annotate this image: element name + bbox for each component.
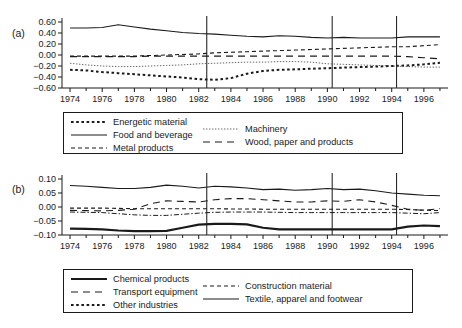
y-tick-label: 0.10 xyxy=(38,174,56,184)
legend-swatch-energetic-material xyxy=(70,117,108,127)
figure-container: (a) 0.600.400.200.00−0.20−0.40−0.6019741… xyxy=(0,0,462,328)
y-tick-label: −0.60 xyxy=(33,83,56,93)
legend-label-construction-material: Construction material xyxy=(245,281,332,291)
x-tick-label: 1980 xyxy=(157,241,177,251)
y-tick-label: 0.00 xyxy=(38,50,56,60)
legend-item-energetic-material: Energetic material xyxy=(70,116,198,128)
x-tick-label: 1992 xyxy=(350,94,370,104)
legend-label-food-and-beverage: Food and beverage xyxy=(113,130,193,140)
chart-panel-a: 0.600.400.200.00−0.20−0.40−0.60197419761… xyxy=(0,0,462,110)
legend-swatch-metal-products xyxy=(70,143,108,153)
series-line-food-and-beverage xyxy=(70,25,440,38)
x-tick-label: 1996 xyxy=(414,241,434,251)
legend-swatch-other-industries xyxy=(70,300,108,310)
series-line-wood-paper-and-products xyxy=(70,56,440,59)
y-tick-label: 0.00 xyxy=(38,202,56,212)
x-tick-label: 1976 xyxy=(92,94,112,104)
y-tick-label: −0.40 xyxy=(33,72,56,82)
x-tick-label: 1996 xyxy=(414,94,434,104)
legend-label-other-industries: Other industries xyxy=(113,300,178,310)
legend-item-textile-apparel-and-footwear: Textile, apparel and footwear xyxy=(202,293,408,305)
x-tick-label: 1990 xyxy=(317,241,337,251)
x-tick-label: 1974 xyxy=(60,94,80,104)
x-tick-label: 1988 xyxy=(285,241,305,251)
y-tick-label: −0.05 xyxy=(33,216,56,226)
series-line-energetic-material xyxy=(70,63,440,80)
series-line-metal-products xyxy=(70,45,440,57)
x-tick-label: 1984 xyxy=(221,94,241,104)
y-tick-label: 0.60 xyxy=(38,17,56,27)
legend-label-machinery: Machinery xyxy=(245,124,287,134)
axis-lines xyxy=(62,18,448,88)
x-tick-label: 1994 xyxy=(382,94,402,104)
x-tick-label: 1990 xyxy=(317,94,337,104)
x-tick-label: 1980 xyxy=(157,94,177,104)
legend-swatch-textile-apparel-and-footwear xyxy=(202,294,240,304)
legend-label-metal-products: Metal products xyxy=(113,143,173,153)
x-tick-label: 1978 xyxy=(124,94,144,104)
x-tick-label: 1982 xyxy=(189,241,209,251)
legend-item-machinery: Machinery xyxy=(202,123,398,135)
series-line-other-industries xyxy=(70,212,440,215)
legend-item-metal-products: Metal products xyxy=(70,142,198,154)
x-tick-label: 1978 xyxy=(124,241,144,251)
y-tick-label: −0.10 xyxy=(33,230,56,240)
x-tick-label: 1974 xyxy=(60,241,80,251)
legend-swatch-machinery xyxy=(202,124,240,134)
legend-label-chemical-products: Chemical products xyxy=(113,274,189,284)
legend-item-food-and-beverage: Food and beverage xyxy=(70,129,198,141)
x-tick-label: 1986 xyxy=(253,241,273,251)
y-tick-label: 0.05 xyxy=(38,188,56,198)
legend-label-energetic-material: Energetic material xyxy=(113,117,187,127)
x-tick-label: 1986 xyxy=(253,94,273,104)
chart-panel-b: 0.100.050.00−0.05−0.10197419761978198019… xyxy=(0,157,462,267)
legend-item-wood-paper-and-products: Wood, paper and products xyxy=(202,136,398,148)
x-tick-label: 1984 xyxy=(221,241,241,251)
legend-item-transport-equipment: Transport equipment xyxy=(70,286,198,298)
legend-label-wood-paper-and-products: Wood, paper and products xyxy=(245,137,353,147)
x-tick-label: 1982 xyxy=(189,94,209,104)
legend-item-other-industries: Other industries xyxy=(70,299,198,311)
legend-label-textile-apparel-and-footwear: Textile, apparel and footwear xyxy=(245,294,362,304)
legend-swatch-construction-material xyxy=(202,281,240,291)
legend-label-transport-equipment: Transport equipment xyxy=(113,287,197,297)
legend-panel-a: Energetic material Food and beverage Met… xyxy=(63,112,403,154)
x-tick-label: 1988 xyxy=(285,94,305,104)
series-line-chemical-products xyxy=(70,224,440,231)
series-line-textile-apparel-and-footwear xyxy=(70,185,440,196)
legend-swatch-food-and-beverage xyxy=(70,130,108,140)
legend-swatch-chemical-products xyxy=(70,274,108,284)
legend-panel-b: Chemical products Transport equipment Ot… xyxy=(63,269,413,313)
y-tick-label: 0.40 xyxy=(38,28,56,38)
y-tick-label: −0.20 xyxy=(33,61,56,71)
legend-item-construction-material: Construction material xyxy=(202,280,408,292)
series-line-construction-material xyxy=(70,208,440,211)
legend-swatch-transport-equipment xyxy=(70,287,108,297)
x-tick-label: 1976 xyxy=(92,241,112,251)
legend-swatch-wood-paper-and-products xyxy=(202,137,240,147)
legend-item-chemical-products: Chemical products xyxy=(70,273,198,285)
y-tick-label: 0.20 xyxy=(38,39,56,49)
x-tick-label: 1994 xyxy=(382,241,402,251)
x-tick-label: 1992 xyxy=(350,241,370,251)
series-line-machinery xyxy=(70,62,440,68)
